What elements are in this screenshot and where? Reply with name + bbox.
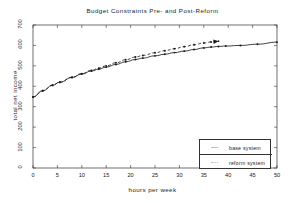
- y-tick-label: 400: [17, 75, 23, 95]
- chart-figure: Budget Constraints Pre- and Post-Reform …: [0, 0, 305, 203]
- y-tick-label: 200: [17, 116, 23, 136]
- x-tick-label: 45: [243, 172, 263, 178]
- legend-label-base-system: base system: [229, 145, 261, 151]
- y-tick-label: 600: [17, 34, 23, 54]
- x-tick-label: 25: [145, 172, 165, 178]
- legend-line-sample-dashed: [204, 162, 226, 163]
- x-tick-label: 5: [47, 172, 67, 178]
- x-tick-label: 20: [121, 172, 141, 178]
- x-tick-label: 30: [169, 172, 189, 178]
- x-tick-label: 10: [72, 172, 92, 178]
- x-tick-label: 40: [218, 172, 238, 178]
- x-tick-label: 15: [96, 172, 116, 178]
- x-tick-label: 50: [267, 172, 287, 178]
- y-tick-label: 0: [17, 157, 23, 177]
- x-tick-label: 35: [194, 172, 214, 178]
- legend: base system reform system: [199, 139, 271, 169]
- y-tick-label: 500: [17, 55, 23, 75]
- legend-label-reform-system: reform system: [229, 160, 265, 166]
- y-tick-label: 300: [17, 96, 23, 116]
- x-axis-label: hours per week: [0, 186, 305, 193]
- x-tick-label: 0: [23, 172, 43, 178]
- legend-line-sample-solid: [204, 147, 226, 148]
- legend-item-base-system[interactable]: base system: [200, 140, 272, 155]
- y-tick-label: 100: [17, 137, 23, 157]
- legend-item-reform-system[interactable]: reform system: [200, 155, 272, 170]
- y-tick-label: 700: [17, 14, 23, 34]
